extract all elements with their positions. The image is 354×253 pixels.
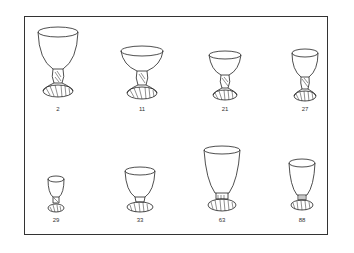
glass-21-illustration xyxy=(205,50,245,105)
goblet-icon xyxy=(35,25,81,105)
juice-glass-icon xyxy=(286,158,318,214)
glass-21-label: 21 xyxy=(210,106,240,112)
glass-27-illustration xyxy=(288,48,322,106)
wine-glass-icon xyxy=(288,48,322,106)
glass-2-label: 2 xyxy=(43,106,73,112)
glass-33-illustration xyxy=(120,166,160,216)
glass-33-label: 33 xyxy=(125,217,155,223)
glass-88-illustration xyxy=(286,158,318,214)
coupe-icon xyxy=(119,45,165,105)
glass-29-label: 29 xyxy=(41,217,71,223)
footed-tumbler-icon xyxy=(120,166,160,216)
glass-2-illustration xyxy=(35,25,81,105)
glass-29-illustration xyxy=(44,175,68,215)
glass-11-illustration xyxy=(119,45,165,105)
cordial-glass-icon xyxy=(44,175,68,215)
glass-88-label: 88 xyxy=(287,217,317,223)
glass-63-illustration xyxy=(201,145,243,215)
iced-tea-glass-icon xyxy=(201,145,243,215)
glass-11-label: 11 xyxy=(127,106,157,112)
cocktail-glass-icon xyxy=(205,50,245,105)
glass-27-label: 27 xyxy=(290,106,320,112)
glass-63-label: 63 xyxy=(207,217,237,223)
